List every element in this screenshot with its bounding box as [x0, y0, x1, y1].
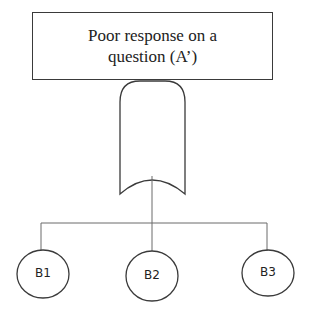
node-b2-label: B2 — [132, 268, 172, 282]
node-b1-label: B1 — [23, 266, 63, 280]
top-event-box: Poor response on a question (A’) — [32, 12, 273, 80]
top-event-line1: Poor response on a — [88, 25, 217, 46]
top-event-line2: question (A’) — [108, 46, 197, 67]
node-b3-label: B3 — [248, 265, 288, 279]
